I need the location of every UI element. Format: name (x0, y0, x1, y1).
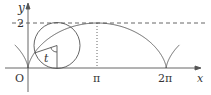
cycloid-diagram: y 2 O t π 2π x (0, 0, 211, 95)
origin-label: O (15, 72, 24, 85)
x-axis-label: x (197, 72, 204, 85)
angle-arc (51, 48, 57, 53)
y-axis-label: y (17, 1, 25, 15)
y-axis-arrow (26, 3, 30, 9)
y-tick-2: 2 (17, 17, 24, 30)
x-tick-pi: π (93, 72, 100, 85)
angle-label: t (44, 52, 49, 65)
x-axis-arrow (195, 66, 201, 70)
x-tick-2pi: 2π (158, 72, 172, 85)
